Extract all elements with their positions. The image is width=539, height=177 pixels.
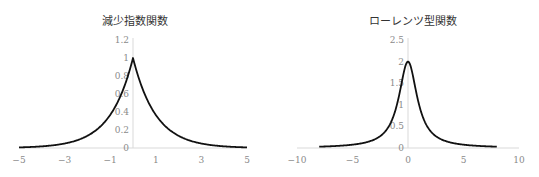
x-tick-label: 0 (405, 155, 411, 165)
x-tick-label: −5 (346, 155, 360, 165)
y-tick-label: 2.5 (390, 35, 405, 45)
y-tick-label: 0 (398, 143, 404, 153)
y-tick-label: 1 (398, 100, 404, 110)
y-tick-label: 0.5 (390, 121, 405, 131)
chart-lorentzian: ローレンツ型関数 −10−5051000.511.522.5 (0, 0, 539, 177)
x-tick-label: −10 (288, 155, 307, 165)
x-tick-label: 5 (461, 155, 467, 165)
plot-area: −10−5051000.511.522.5 (0, 0, 539, 177)
y-tick-label: 2 (398, 57, 404, 67)
x-tick-label: 10 (513, 155, 525, 165)
